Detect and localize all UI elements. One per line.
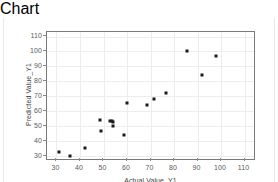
- y-tick-mark: [43, 50, 46, 51]
- x-tick-label: 100: [214, 164, 226, 171]
- x-tick-mark: [150, 158, 151, 161]
- x-tick-mark: [55, 158, 56, 161]
- data-point: [111, 124, 114, 127]
- data-point: [153, 97, 156, 100]
- x-tick-mark: [126, 158, 127, 161]
- y-tick-mark: [43, 95, 46, 96]
- y-tick-mark: [43, 140, 46, 141]
- x-tick-label: 110: [238, 164, 249, 171]
- y-tick-mark: [43, 35, 46, 36]
- y-tick-mark: [43, 155, 46, 156]
- x-tick-label: 40: [75, 164, 83, 171]
- data-point: [186, 50, 189, 53]
- x-tick-label: 50: [98, 164, 106, 171]
- y-tick-mark: [43, 125, 46, 126]
- y-axis-title-wrapper: Predicted Value_Y1: [6, 18, 7, 19]
- data-point: [201, 74, 204, 77]
- y-tick-mark: [43, 80, 46, 81]
- data-points-layer: [47, 32, 254, 159]
- x-axis-title: Actual Value_Y1: [46, 177, 255, 182]
- x-tick-mark: [173, 158, 174, 161]
- x-tick-label: 80: [169, 164, 177, 171]
- x-tick-label: 70: [146, 164, 154, 171]
- data-point: [99, 129, 102, 132]
- plot-area: [46, 31, 255, 160]
- scatter-chart-figure: 30405060708090100110 3040506070809010011…: [0, 18, 278, 182]
- data-point: [99, 119, 102, 122]
- x-tick-mark: [102, 158, 103, 161]
- x-tick-mark: [197, 158, 198, 161]
- data-point: [214, 54, 217, 57]
- y-tick-mark: [43, 110, 46, 111]
- data-point: [69, 155, 72, 158]
- x-tick-label: 30: [51, 164, 59, 171]
- data-point: [164, 92, 167, 95]
- data-point: [58, 151, 61, 154]
- x-tick-mark: [220, 158, 221, 161]
- x-tick-mark: [79, 158, 80, 161]
- data-point: [126, 102, 129, 105]
- data-point: [146, 103, 149, 106]
- y-axis-title: Predicted Value_Y1: [25, 30, 32, 159]
- x-tick-mark: [244, 158, 245, 161]
- y-tick-mark: [43, 65, 46, 66]
- data-point: [112, 120, 115, 123]
- x-tick-label: 60: [122, 164, 130, 171]
- x-tick-label: 90: [193, 164, 201, 171]
- data-point: [84, 147, 87, 150]
- data-point: [123, 134, 126, 137]
